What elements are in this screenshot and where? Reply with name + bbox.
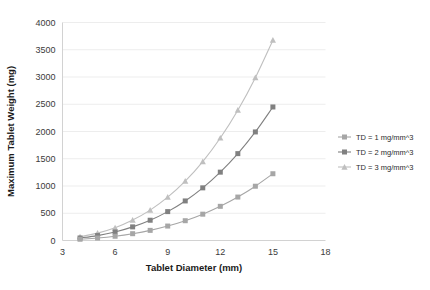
data-point [183,218,188,223]
x-tick-label: 12 [215,247,225,257]
legend-marker [342,135,347,140]
data-point [200,185,205,190]
data-point [78,237,83,242]
y-tick-label: 1500 [35,154,55,164]
legend-label: TD = 3 mg/mm^3 [356,163,414,172]
y-tick-label: 4000 [35,18,55,28]
x-tick-label: 3 [60,247,65,257]
data-point [165,209,170,214]
data-point [130,231,135,236]
x-tick-label: 9 [165,247,170,257]
y-tick-label: 2500 [35,99,55,109]
data-point [270,104,275,109]
data-point [235,195,240,200]
y-tick-labels: 05001000150020002500300035004000 [35,18,55,246]
y-tick-label: 3500 [35,45,55,55]
legend-item-2[interactable]: TD = 2 mg/mm^3 [338,148,414,157]
x-tick-label: 6 [113,247,118,257]
y-tick-label: 2000 [35,127,55,137]
data-point [95,236,100,241]
legend-label: TD = 2 mg/mm^3 [356,148,414,157]
data-point [113,229,118,234]
data-point [218,170,223,175]
data-point [183,198,188,203]
data-point [113,234,118,239]
y-tick-label: 500 [40,208,55,218]
line-chart: 0500100015002000250030003500400036912151… [0,0,430,290]
data-point [165,224,170,229]
legend-item-1[interactable]: TD = 1 mg/mm^3 [338,133,414,142]
y-tick-label: 3000 [35,72,55,82]
x-tick-label: 15 [268,247,278,257]
data-point [148,228,153,233]
chart-container: 0500100015002000250030003500400036912151… [0,0,430,290]
data-point [253,129,258,134]
y-axis-title: Maximum Tablet Weight (mg) [5,66,16,197]
legend-label: TD = 1 mg/mm^3 [356,133,414,142]
legend-item-3[interactable]: TD = 3 mg/mm^3 [338,163,414,172]
x-tick-label: 18 [320,247,330,257]
data-point [235,151,240,156]
y-tick-label: 1000 [35,181,55,191]
y-tick-label: 0 [50,236,55,246]
x-tick-labels: 369121518 [60,247,331,257]
data-point [218,204,223,209]
legend: TD = 1 mg/mm^3TD = 2 mg/mm^3TD = 3 mg/mm… [338,133,414,172]
data-point [200,212,205,217]
data-point [148,218,153,223]
data-point [253,184,258,189]
data-point [270,171,275,176]
legend-marker [342,150,347,155]
x-axis-title: Tablet Diameter (mm) [146,262,242,273]
data-point [130,224,135,229]
